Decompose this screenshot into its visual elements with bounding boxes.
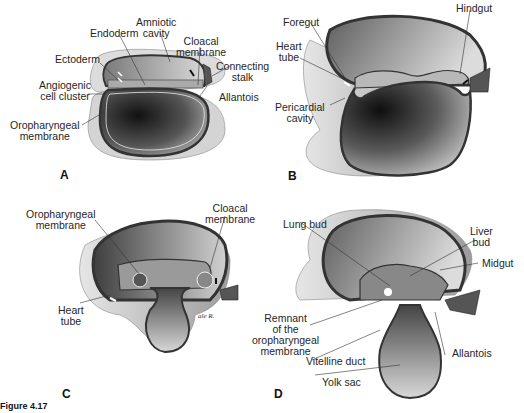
label-cloacal-membrane-a: Cloacal membrane — [176, 36, 226, 58]
panel-letter-a: A — [60, 168, 69, 182]
panel-a-drawing — [88, 49, 225, 160]
label-foregut: Foregut — [283, 17, 319, 28]
label-oropharyngeal-membrane-a: Oropharyngeal membrane — [10, 120, 79, 142]
panel-letter-d: D — [274, 387, 283, 401]
panel-b-drawing — [303, 16, 490, 176]
figure-caption: Figure 4.17 — [0, 401, 48, 411]
label-vitelline-duct: Vitelline duct — [306, 356, 365, 367]
panel-letter-c: C — [62, 387, 71, 401]
label-amniotic-cavity: Amniotic cavity — [136, 17, 176, 39]
label-connecting-stalk: Connecting stalk — [216, 61, 269, 83]
label-remnant-oropharyngeal-membrane: Remnant of the oropharyngeal membrane — [252, 313, 319, 357]
label-oropharyngeal-membrane-c: Oropharyngeal membrane — [26, 209, 95, 231]
label-angiogenic-cell-cluster: Angiogenic cell cluster — [39, 80, 91, 102]
panel-d-drawing — [296, 210, 480, 398]
label-hindgut: Hindgut — [456, 3, 492, 14]
label-yolk-sac: Yolk sac — [322, 377, 361, 388]
label-allantois-a: Allantois — [219, 92, 259, 103]
label-midgut: Midgut — [482, 258, 514, 269]
label-endoderm: Endoderm — [90, 28, 138, 39]
label-cloacal-membrane-c: Cloacal membrane — [205, 203, 255, 225]
caption-label: Figure 4.17 — [0, 401, 48, 411]
panel-letter-b: B — [288, 169, 297, 183]
label-allantois-d: Allantois — [452, 348, 492, 359]
label-liver-bud: Liver bud — [470, 226, 493, 248]
label-ectoderm: Ectoderm — [55, 54, 100, 65]
label-heart-tube-b: Heart tube — [276, 41, 302, 63]
panel-c-drawing — [80, 221, 238, 352]
label-heart-tube-c: Heart tube — [58, 305, 84, 327]
label-pericardial-cavity: Pericardial cavity — [275, 102, 325, 124]
artist-signature: ale R. — [198, 312, 215, 320]
label-lung-bud: Lung bud — [283, 219, 327, 230]
